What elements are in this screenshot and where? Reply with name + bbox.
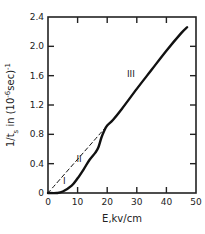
y-tick-label: 0 bbox=[38, 188, 44, 198]
y-axis-label: 1/ts in (10-6sec)-1 bbox=[4, 63, 20, 147]
region-label: III bbox=[127, 69, 135, 79]
y-tick-label: 1.6 bbox=[30, 71, 45, 81]
x-tick-label: 0 bbox=[45, 197, 51, 207]
y-tick-label: 2.4 bbox=[30, 12, 45, 22]
tick-labels: 0102030405000.40.81.21.62.02.4 bbox=[30, 12, 202, 207]
y-tick-label: 2.0 bbox=[30, 41, 45, 51]
x-axis-label: E,kv/cm bbox=[102, 213, 142, 224]
solid-curve bbox=[48, 27, 187, 193]
y-tick-label: 0.8 bbox=[30, 129, 45, 139]
region-label: I bbox=[63, 176, 66, 186]
region-annotations: IIIIII bbox=[63, 69, 135, 186]
x-tick-label: 30 bbox=[131, 197, 143, 207]
x-tick-label: 50 bbox=[190, 197, 202, 207]
data-series bbox=[48, 27, 187, 193]
y-tick-label: 1.2 bbox=[30, 100, 44, 110]
chart: 0102030405000.40.81.21.62.02.4 IIIIII E,… bbox=[0, 0, 205, 234]
x-tick-label: 10 bbox=[72, 197, 84, 207]
x-tick-label: 40 bbox=[161, 197, 173, 207]
region-label: II bbox=[76, 154, 81, 164]
y-tick-label: 0.4 bbox=[30, 159, 45, 169]
x-tick-label: 20 bbox=[101, 197, 113, 207]
